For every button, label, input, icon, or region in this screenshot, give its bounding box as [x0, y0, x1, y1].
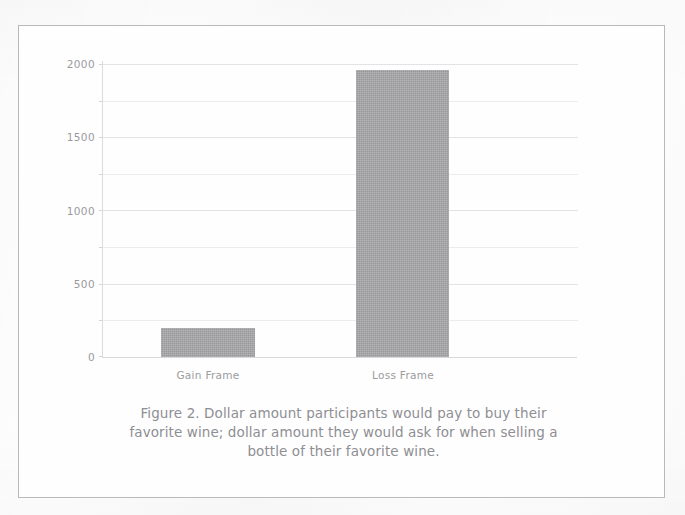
figure-frame: 2000 1500 1000 500 0 — [18, 25, 665, 498]
x-axis-tick-labels: Gain Frame Loss Frame — [103, 369, 578, 387]
y-axis-tick-labels: 2000 1500 1000 500 0 — [39, 64, 95, 357]
figure-caption: Figure 2. Dollar amount participants wou… — [71, 404, 616, 461]
caption-line-2: favorite wine; dollar amount they would … — [71, 423, 616, 442]
x-tick-label-loss-frame: Loss Frame — [372, 369, 434, 381]
y-tick-label-500: 500 — [74, 278, 95, 290]
gridline-1000 — [103, 210, 578, 211]
bar-loss-frame — [356, 70, 449, 357]
x-tick-label-gain-frame: Gain Frame — [176, 369, 239, 381]
caption-line-1: Figure 2. Dollar amount participants wou… — [71, 404, 616, 423]
gridline-500 — [103, 284, 578, 285]
scanned-page: 2000 1500 1000 500 0 — [0, 0, 685, 515]
gridline-2000 — [103, 64, 578, 65]
gridline-750 — [103, 247, 578, 248]
y-tick-label-0: 0 — [88, 351, 95, 363]
y-tick-label-2000: 2000 — [67, 58, 95, 70]
gridline-250 — [103, 320, 578, 321]
gridline-1500 — [103, 137, 578, 138]
plot-area — [103, 64, 578, 357]
y-tick-label-1000: 1000 — [67, 205, 95, 217]
gridline-1250 — [103, 174, 578, 175]
bar-gain-frame — [161, 328, 255, 357]
y-tick-label-1500: 1500 — [67, 131, 95, 143]
bar-chart: 2000 1500 1000 500 0 — [19, 26, 666, 381]
value-axis-line — [102, 61, 103, 357]
gridline-1750 — [103, 101, 578, 102]
caption-line-3: bottle of their favorite wine. — [71, 442, 616, 461]
category-axis-line — [102, 357, 577, 358]
